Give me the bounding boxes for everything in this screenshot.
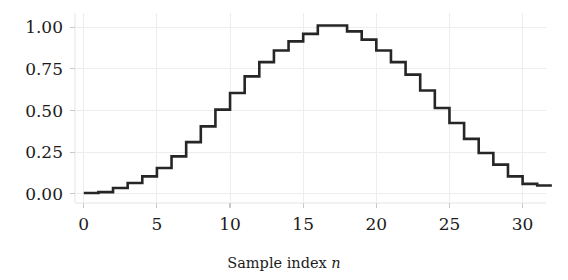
- y-tick-label-3: 0.75: [25, 59, 63, 79]
- y-tick-labels-group: 0.000.250.500.751.00: [25, 17, 63, 204]
- x-tick-label-2: 10: [219, 214, 241, 234]
- x-tick-label-3: 15: [292, 214, 314, 234]
- x-tick-label-6: 30: [512, 214, 534, 234]
- tick-marks-group: [70, 27, 523, 208]
- data-series-group: [84, 26, 552, 194]
- x-axis-title: Sample index n: [227, 255, 340, 271]
- step-plot-svg: 0.000.250.500.751.00 051015202530 Sample…: [0, 0, 568, 280]
- x-tick-label-1: 5: [151, 214, 162, 234]
- y-tick-label-4: 1.00: [25, 17, 63, 37]
- gridlines-group: [75, 13, 546, 203]
- x-tick-label-4: 20: [366, 214, 388, 234]
- x-axis-title-text: Sample index: [227, 255, 331, 271]
- x-tick-label-5: 25: [439, 214, 461, 234]
- step-line-window: [84, 26, 552, 194]
- x-tick-label-0: 0: [78, 214, 89, 234]
- chart-figure: 0.000.250.500.751.00 051015202530 Sample…: [0, 0, 568, 280]
- y-tick-label-2: 0.50: [25, 101, 63, 121]
- x-axis-title-symbol: n: [331, 255, 340, 271]
- y-tick-label-1: 0.25: [25, 142, 63, 162]
- y-tick-label-0: 0.00: [25, 184, 63, 204]
- axis-spines-group: [75, 13, 546, 203]
- x-tick-labels-group: 051015202530: [78, 214, 533, 234]
